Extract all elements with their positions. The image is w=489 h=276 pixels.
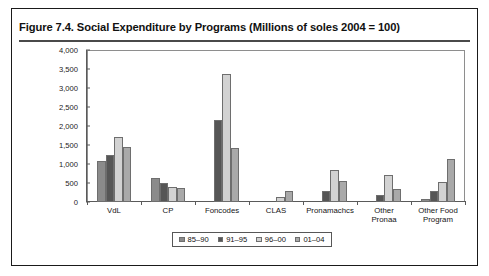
- bar: [330, 170, 339, 202]
- x-tick-label: CLAS: [249, 206, 303, 215]
- bar: [106, 155, 115, 203]
- bar: [114, 137, 123, 202]
- bar-group: [303, 50, 357, 202]
- legend-item: 91–95: [218, 235, 248, 244]
- legend-swatch-icon: [218, 237, 224, 243]
- legend-swatch-icon: [179, 237, 185, 243]
- bar: [168, 187, 177, 202]
- y-tick-label: 3,500: [32, 65, 78, 74]
- bar: [160, 183, 169, 202]
- bar: [376, 195, 385, 202]
- y-tick-label: 3,000: [32, 84, 78, 93]
- x-tick-mark: [411, 201, 412, 205]
- bar: [123, 147, 132, 202]
- legend-label: 01–04: [303, 235, 324, 244]
- x-tick-mark: [465, 201, 466, 205]
- legend-item: 01–04: [295, 235, 325, 244]
- bar-group: [411, 50, 465, 202]
- bar: [285, 191, 294, 202]
- legend-label: 96–00: [265, 235, 286, 244]
- bar: [393, 189, 402, 202]
- bar: [421, 199, 430, 202]
- bar-group: [141, 50, 195, 202]
- x-tick-label: Pronamachcs: [303, 206, 357, 215]
- bar: [322, 191, 331, 202]
- legend-label: 85–90: [188, 235, 209, 244]
- bar: [151, 178, 160, 202]
- bar: [384, 175, 393, 202]
- legend-swatch-icon: [256, 237, 262, 243]
- x-tick-label: Other Food Program: [411, 206, 465, 225]
- legend-item: 96–00: [256, 235, 286, 244]
- x-tick-mark: [303, 201, 304, 205]
- legend-swatch-icon: [295, 237, 301, 243]
- x-tick-mark: [87, 201, 88, 205]
- x-tick-mark: [357, 201, 358, 205]
- bars-layer: [87, 50, 465, 202]
- bar: [438, 182, 447, 202]
- legend-item: 85–90: [179, 235, 209, 244]
- y-tick-label: 500: [32, 179, 78, 188]
- bar: [222, 74, 231, 202]
- bar-group: [195, 50, 249, 202]
- bar-group: [357, 50, 411, 202]
- x-tick-label: Foncodes: [195, 206, 249, 215]
- x-tick-label: VdL: [87, 206, 141, 215]
- x-tick-mark: [141, 201, 142, 205]
- bar: [231, 148, 240, 202]
- y-tick-label: 2,500: [32, 103, 78, 112]
- chart-legend: 85–9091–9596–0001–04: [172, 232, 332, 247]
- bar: [177, 188, 186, 202]
- bar-group: [87, 50, 141, 202]
- bar: [214, 120, 223, 202]
- x-tick-mark: [195, 201, 196, 205]
- bar-group: [249, 50, 303, 202]
- bar: [430, 191, 439, 202]
- x-tick-label: CP: [141, 206, 195, 215]
- x-tick-mark: [249, 201, 250, 205]
- bar: [339, 181, 348, 202]
- bar: [447, 159, 456, 202]
- legend-label: 91–95: [226, 235, 247, 244]
- y-tick-label: 0: [32, 198, 78, 207]
- x-tick-label: Other Pronaa: [357, 206, 411, 225]
- y-tick-label: 1,500: [32, 141, 78, 150]
- y-tick-label: 1,000: [32, 160, 78, 169]
- y-tick-label: 2,000: [32, 122, 78, 131]
- bar: [276, 197, 285, 202]
- bar: [97, 161, 106, 202]
- y-tick-label: 4,000: [32, 46, 78, 55]
